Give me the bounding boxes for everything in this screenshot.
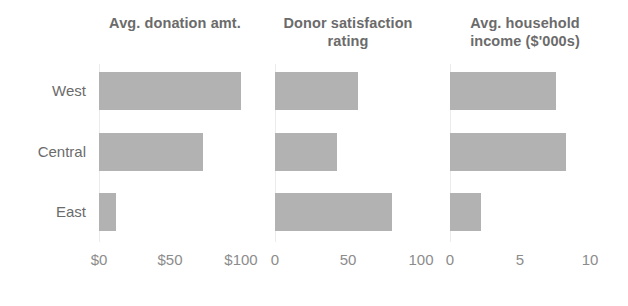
panel-plot-area-1 (265, 64, 431, 242)
value-axis-ticks-0: $0 $50 $100 (90, 250, 260, 272)
tick-label-1-1: 50 (340, 250, 357, 270)
panel-plot-area-2 (440, 64, 610, 242)
category-axis-labels: West Central East (0, 64, 86, 242)
panel-avg-donation-amount: Avg. donation amt. $0 $50 $100 (90, 0, 260, 306)
bar-central-2 (450, 133, 566, 171)
value-axis-ticks-1: 0 50 100 (265, 250, 431, 272)
bar-west-1 (275, 72, 358, 110)
tick-label-0-2: $100 (224, 250, 257, 270)
panel-title-donor-satisfaction-rating: Donor satisfaction rating (265, 14, 431, 50)
bar-east-1 (275, 193, 392, 231)
panel-title-avg-donation-amount: Avg. donation amt. (90, 14, 260, 32)
tick-label-2-1: 5 (516, 250, 524, 270)
panel-avg-household-income: Avg. household income ($'000s) 0 5 10 (440, 0, 610, 306)
bar-east-0 (99, 193, 116, 231)
tick-label-2-2: 10 (582, 250, 599, 270)
panel-plot-area-0 (90, 64, 260, 242)
small-multiples-bar-chart: West Central East Avg. donation amt. $0 … (0, 0, 628, 306)
tick-label-2-0: 0 (446, 250, 454, 270)
tick-label-0-1: $50 (157, 250, 182, 270)
bar-west-2 (450, 72, 556, 110)
tick-label-1-0: 0 (271, 250, 279, 270)
bar-west-0 (99, 72, 241, 110)
tick-label-0-0: $0 (91, 250, 108, 270)
panel-donor-satisfaction-rating: Donor satisfaction rating 0 50 100 (265, 0, 431, 306)
value-axis-ticks-2: 0 5 10 (440, 250, 610, 272)
bar-central-1 (275, 133, 337, 171)
category-label-central: Central (0, 142, 86, 162)
tick-label-1-2: 100 (408, 250, 433, 270)
panel-title-avg-household-income: Avg. household income ($'000s) (440, 14, 610, 50)
category-label-east: East (0, 202, 86, 222)
category-label-west: West (0, 81, 86, 101)
bar-east-2 (450, 193, 481, 231)
bar-central-0 (99, 133, 203, 171)
